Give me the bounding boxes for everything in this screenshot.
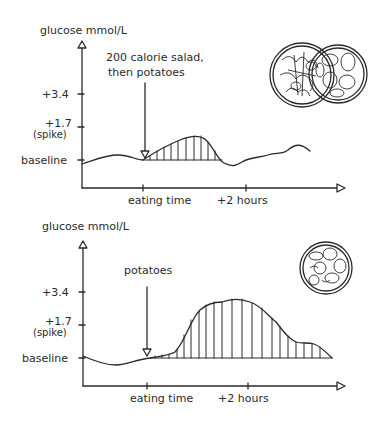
annotation-line-2: then potatoes xyxy=(108,67,185,78)
chart-salad-then-potatoes: glucose mmol/L 200 calorie salad, then p… xyxy=(0,0,372,210)
y-tick-spike: +1.7 xyxy=(45,316,72,327)
y-tick-high: +3.4 xyxy=(42,89,69,100)
x-axis-arrow-icon xyxy=(337,382,345,390)
x-tick-2-hours: +2 hours xyxy=(217,195,268,206)
y-axis-arrow-icon xyxy=(78,41,86,48)
spike-hatching xyxy=(150,299,332,358)
y-tick-baseline: baseline xyxy=(22,353,68,364)
annotation: potatoes xyxy=(124,265,172,276)
glucose-curve xyxy=(82,136,310,165)
y-axis-arrow-icon xyxy=(79,241,87,248)
y-tick-spike: +1.7 xyxy=(45,118,72,129)
x-tick-eating-time: eating time xyxy=(130,393,193,404)
y-axis-label: glucose mmol/L xyxy=(42,221,129,232)
plate-potatoes-illustration xyxy=(300,242,352,294)
x-axis-arrow-icon xyxy=(337,184,345,192)
y-tick-high: +3.4 xyxy=(42,287,69,298)
y-tick-spike-note: (spike) xyxy=(33,327,67,338)
y-axis-label: glucose mmol/L xyxy=(40,25,127,36)
annotation-line-1: 200 calorie salad, xyxy=(106,52,204,63)
plate-salad-and-potatoes-illustration xyxy=(270,43,367,107)
y-tick-spike-note: (spike) xyxy=(33,129,67,140)
chart-potatoes-only: glucose mmol/L potatoes +3.4 +1.7 (spike… xyxy=(0,210,372,426)
x-tick-eating-time: eating time xyxy=(128,195,191,206)
x-tick-2-hours: +2 hours xyxy=(218,393,269,404)
glucose-curve xyxy=(83,299,332,365)
y-tick-baseline: baseline xyxy=(21,155,67,166)
